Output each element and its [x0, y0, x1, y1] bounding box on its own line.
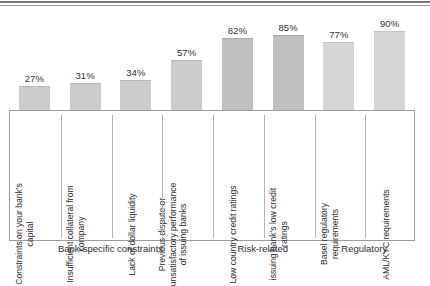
category-label: Constraints on your bank'scapital [14, 183, 35, 284]
category-label-line: AML/KYC requirements [380, 189, 391, 279]
category-label-line: company [76, 185, 87, 282]
category-label-line: Insufficient collateral from [65, 185, 76, 282]
bar-group-1: 27% [9, 73, 60, 110]
category-label-line: issuing bank's low credit [268, 188, 279, 280]
category-cell-7: Basel regulatoryrequirements [315, 111, 366, 240]
group-label-3: Regulatory [314, 243, 416, 255]
category-label-line: unsatisfactory performance [167, 182, 178, 286]
bar-rect [273, 35, 304, 110]
bar-rect [120, 80, 151, 110]
bar-rect [374, 31, 405, 110]
category-cell-6: issuing bank's low creditratings [264, 111, 315, 240]
cell-divider [162, 115, 163, 238]
top-rule-upper [0, 1, 430, 3]
bar-value-label: 85% [263, 22, 314, 33]
bar-value-label: 57% [161, 47, 212, 58]
category-label-line: Constraints on your bank's [14, 183, 25, 284]
bar-group-7: 77% [314, 29, 365, 110]
category-cell-4: Previous dispute orunsatisfactory perfor… [162, 111, 213, 240]
bar-value-label: 27% [9, 73, 60, 84]
bar-value-label: 82% [212, 25, 263, 36]
bar-group-8: 90% [364, 18, 415, 110]
bar-value-label: 90% [364, 18, 415, 29]
bar-rect [70, 83, 101, 110]
cell-divider [365, 115, 366, 238]
category-label: Insufficient collateral fromcompany [65, 185, 86, 282]
bar-group-3: 34% [111, 67, 162, 110]
bar-group-2: 31% [60, 70, 111, 110]
group-label-2: Risk-related [212, 243, 314, 255]
bar-chart-plot-area: 27%31%34%57%82%85%77%90% [0, 16, 430, 110]
top-rule-lower [0, 5, 430, 6]
cell-divider [112, 115, 113, 238]
cell-divider [213, 115, 214, 238]
bar-rect [323, 42, 354, 110]
category-label-line: capital [25, 183, 36, 284]
page-top-rules [0, 0, 430, 8]
category-cell-8: AML/KYC requirements [365, 111, 416, 240]
bar-rect [19, 86, 50, 110]
bar-value-label: 77% [314, 29, 365, 40]
bar-group-5: 82% [212, 25, 263, 110]
category-label-line: Low country credit ratings [228, 185, 239, 283]
group-label-row: Bank-specific constraintsRisk-relatedReg… [0, 243, 430, 263]
cell-divider [264, 115, 265, 238]
group-label-1: Bank-specific constraints [9, 243, 212, 255]
category-label: Previous dispute orunsatisfactory perfor… [156, 182, 188, 286]
category-cell-2: Insufficient collateral fromcompany [61, 111, 112, 240]
category-label: Low country credit ratings [228, 185, 239, 283]
category-label-line: ratings [279, 188, 290, 280]
category-cell-1: Constraints on your bank'scapital [10, 111, 61, 240]
bar-group-6: 85% [263, 22, 314, 110]
bar-value-label: 34% [111, 67, 162, 78]
bar-rect [171, 60, 202, 110]
category-cell-3: Lack of dollar liquidity [112, 111, 163, 240]
bar-value-label: 31% [60, 70, 111, 81]
category-label: issuing bank's low creditratings [268, 188, 289, 280]
category-label-table: Constraints on your bank'scapitalInsuffi… [9, 110, 415, 241]
category-cell-5: Low country credit ratings [213, 111, 264, 240]
cell-divider [61, 115, 62, 238]
bar-rect [222, 38, 253, 110]
category-label-line: of issuing banks [177, 182, 188, 286]
cell-divider [315, 115, 316, 238]
bar-group-4: 57% [161, 47, 212, 110]
category-label: AML/KYC requirements [380, 189, 391, 279]
